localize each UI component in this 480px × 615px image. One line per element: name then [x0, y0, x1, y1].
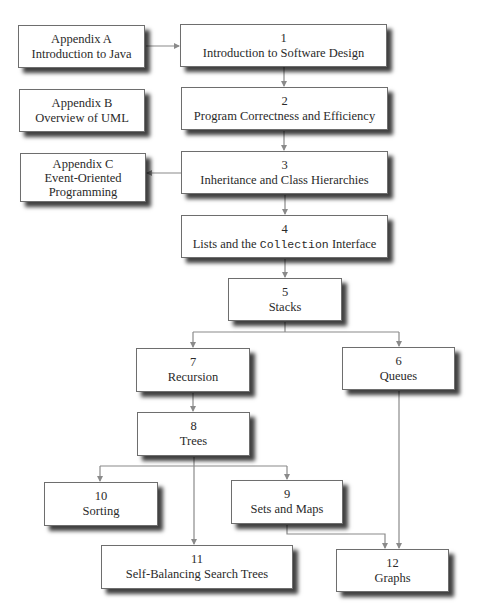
node-chapter-1: 1 Introduction to Software Design [180, 24, 387, 67]
chapter-number: 4 [281, 222, 287, 237]
chapter-number: 6 [395, 354, 401, 369]
node-appendix-c: Appendix C Event-Oriented Programming [20, 153, 146, 202]
node-label-line2: Introduction to Java [32, 47, 132, 62]
chapter-title: Introduction to Software Design [203, 46, 364, 61]
chapter-title-code: Collection [260, 238, 329, 251]
chapter-title-pre: Lists and the [193, 237, 260, 251]
node-chapter-9: 9 Sets and Maps [231, 480, 343, 524]
chapter-number: 2 [281, 94, 287, 109]
chapter-number: 9 [284, 487, 290, 502]
chapter-title: Recursion [168, 370, 219, 385]
chapter-title: Inheritance and Class Hierarchies [200, 173, 368, 188]
chapter-title: Sets and Maps [251, 502, 324, 517]
chapter-title: Program Correctness and Efficiency [194, 109, 375, 124]
chapter-title: Stacks [269, 300, 302, 315]
chapter-title-post: Interface [329, 237, 377, 251]
node-chapter-4: 4 Lists and the Collection Interface [181, 215, 388, 258]
edge-ch9-ch12 [287, 525, 385, 548]
node-chapter-2: 2 Program Correctness and Efficiency [181, 87, 388, 130]
chapter-title: Trees [180, 434, 207, 449]
chapter-title: Sorting [83, 504, 120, 519]
edge-ch5-branch [193, 322, 399, 332]
node-appendix-b: Appendix B Overview of UML [19, 89, 145, 132]
node-label-line1: Appendix C [53, 157, 114, 171]
chapter-number: 12 [386, 556, 399, 571]
node-chapter-3: 3 Inheritance and Class Hierarchies [181, 151, 388, 194]
chapter-number: 5 [282, 285, 288, 300]
chapter-title: Graphs [374, 571, 410, 586]
node-chapter-11: 11 Self-Balancing Search Trees [101, 545, 293, 589]
node-label-line2: Overview of UML [35, 111, 129, 126]
chapter-number: 10 [95, 489, 108, 504]
node-chapter-6: 6 Queues [342, 347, 455, 390]
node-label-line3: Programming [49, 185, 118, 199]
node-chapter-10: 10 Sorting [44, 482, 158, 526]
chapter-number: 7 [190, 355, 196, 370]
chapter-number: 1 [280, 31, 286, 46]
chapter-number: 11 [191, 552, 203, 567]
node-chapter-12: 12 Graphs [336, 549, 449, 592]
node-chapter-8: 8 Trees [137, 412, 250, 456]
node-label-line1: Appendix A [51, 32, 112, 47]
node-label-line2: Event-Oriented [44, 171, 121, 185]
chapter-number: 8 [190, 419, 196, 434]
chapter-title: Lists and the Collection Interface [193, 237, 377, 252]
node-label-line1: Appendix B [52, 96, 113, 111]
node-appendix-a: Appendix A Introduction to Java [18, 25, 145, 68]
node-chapter-5: 5 Stacks [228, 278, 342, 321]
node-chapter-7: 7 Recursion [136, 348, 250, 392]
chapter-title: Queues [380, 369, 418, 384]
chapter-title: Self-Balancing Search Trees [126, 567, 268, 582]
chapter-number: 3 [281, 158, 287, 173]
